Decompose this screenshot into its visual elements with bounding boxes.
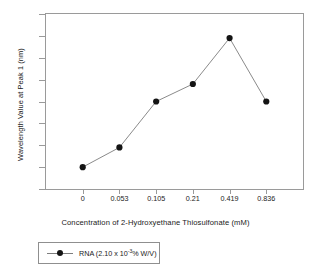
x-tick-mark bbox=[266, 190, 267, 194]
data-point-marker bbox=[116, 144, 122, 150]
x-tick-mark bbox=[83, 190, 84, 194]
legend-marker-icon bbox=[47, 248, 73, 258]
x-axis-title: Concentration of 2-Hydroxyethane Thiosul… bbox=[0, 218, 311, 227]
data-point-marker bbox=[80, 164, 86, 170]
x-tick-label: 0.836 bbox=[244, 194, 288, 203]
x-tick-mark bbox=[230, 190, 231, 194]
data-point-marker bbox=[153, 98, 159, 104]
legend-entry-label: RNA (2.10 x 10-3% W/V) bbox=[79, 248, 157, 258]
chart-figure: Wavelength Value at Peak 1 (nm) 226 224 … bbox=[0, 0, 311, 271]
plot-area bbox=[45, 13, 304, 190]
chart-legend: RNA (2.10 x 10-3% W/V) bbox=[38, 242, 160, 264]
x-tick-mark bbox=[119, 190, 120, 194]
y-axis-title: Wavelength Value at Peak 1 (nm) bbox=[16, 15, 25, 195]
data-point-marker bbox=[263, 98, 269, 104]
x-tick-mark bbox=[193, 190, 194, 194]
data-series-line bbox=[46, 14, 303, 189]
x-tick-mark bbox=[156, 190, 157, 194]
data-point-marker bbox=[190, 81, 196, 87]
series-polyline bbox=[83, 38, 267, 167]
data-point-marker bbox=[226, 35, 232, 41]
